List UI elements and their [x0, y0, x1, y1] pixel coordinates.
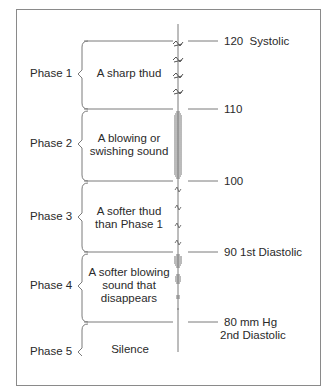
brace-phase-5	[78, 324, 88, 356]
pressure-90: 90 1st Diastolic	[224, 246, 302, 259]
brace-phase-3	[78, 183, 88, 252]
phase-2-label: Phase 2	[30, 137, 72, 150]
pressure-100: 100	[224, 175, 243, 188]
phase-3-label: Phase 3	[30, 210, 72, 223]
phase-2-description: A blowing or swishing sound	[90, 132, 169, 158]
phase-4-label: Phase 4	[30, 279, 72, 292]
brace-phase-4	[78, 254, 88, 322]
brace-phase-1	[78, 41, 88, 109]
phase-1-label: Phase 1	[30, 67, 72, 80]
pressure-80: 80 mm Hg 2nd Diastolic	[224, 316, 286, 342]
brace-phase-2	[78, 111, 88, 181]
phase-5-label: Phase 5	[30, 345, 72, 358]
phase-5-description: Silence	[111, 343, 149, 356]
pressure-110: 110	[224, 103, 242, 116]
phase-1-description: A sharp thud	[97, 67, 162, 80]
phase-3-description: A softer thud than Phase 1	[95, 205, 163, 231]
pressure-120: 120 Systolic	[224, 35, 289, 48]
phase-4-description: A softer blowing sound that disappears	[88, 266, 169, 305]
